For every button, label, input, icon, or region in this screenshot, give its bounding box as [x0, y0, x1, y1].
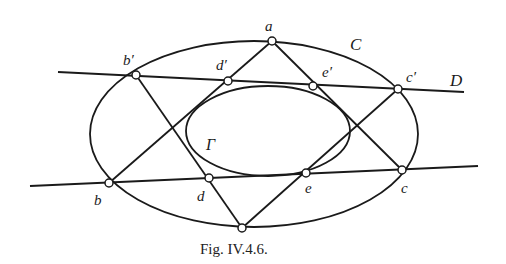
point-bottom	[238, 224, 246, 232]
point-d-prime	[224, 77, 232, 85]
label-a: a	[265, 18, 273, 34]
line-lower	[30, 166, 478, 186]
point-e-prime	[309, 82, 317, 90]
label-C: C	[350, 35, 362, 54]
geometry-figure: a b′ d′ e′ c′ b d e c C D Γ Fig. IV.4.6.	[0, 0, 506, 264]
label-c-prime: c′	[406, 69, 417, 85]
inner-ellipse-gamma	[186, 86, 350, 176]
label-e: e	[305, 180, 312, 196]
tangent-segments	[109, 41, 402, 228]
point-b	[105, 179, 113, 187]
point-d	[205, 174, 213, 182]
label-b-prime: b′	[123, 52, 135, 68]
label-d: d	[197, 188, 205, 204]
label-d-prime: d′	[216, 57, 228, 73]
points	[105, 37, 406, 232]
point-e	[302, 169, 310, 177]
label-b: b	[94, 192, 102, 208]
point-b-prime	[132, 71, 140, 79]
figure-caption: Fig. IV.4.6.	[200, 241, 268, 257]
label-e-prime: e′	[322, 64, 333, 80]
label-c: c	[401, 180, 408, 196]
label-D: D	[449, 71, 463, 90]
label-gamma: Γ	[205, 136, 216, 153]
outer-ellipse-C	[90, 41, 418, 227]
point-c-prime	[394, 85, 402, 93]
point-a	[268, 37, 276, 45]
point-c	[398, 166, 406, 174]
